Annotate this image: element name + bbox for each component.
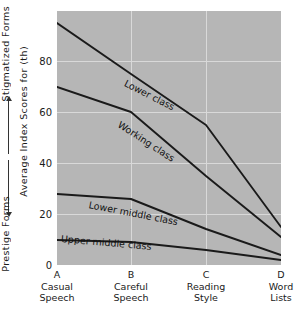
y-tick-60: 60 (30, 107, 52, 118)
x-tick-a: A Casual Speech (22, 269, 92, 304)
x-tick-d: D Word Lists (246, 269, 302, 304)
x-tick-d-line1: Word (246, 281, 302, 293)
x-tick-d-code: D (246, 269, 302, 281)
series-lines (57, 11, 281, 265)
stigmatized-arrow-head-icon (6, 96, 12, 101)
x-tick-d-line2: Lists (246, 292, 302, 304)
x-tick-a-line2: Speech (22, 292, 92, 304)
x-tick-c-code: C (171, 269, 241, 281)
stigmatized-forms-label: Stigmatized Forms (0, 6, 11, 101)
x-tick-a-line1: Casual (22, 281, 92, 293)
y-tick-40: 40 (30, 158, 52, 169)
x-tick-a-code: A (22, 269, 92, 281)
x-tick-b-code: B (96, 269, 166, 281)
x-tick-b-line1: Careful (96, 281, 166, 293)
x-tick-c-line2: Style (171, 292, 241, 304)
stigmatized-arrow-shaft (8, 100, 9, 154)
plot-area: Lower class Working class Lower middle c… (57, 11, 281, 265)
y-tick-80: 80 (30, 56, 52, 67)
x-tick-c: C Reading Style (171, 269, 241, 304)
x-tick-b: B Careful Speech (96, 269, 166, 304)
chart-figure: Stigmatized Forms Prestige Forms Average… (0, 0, 302, 314)
prestige-forms-label: Prestige Forms (0, 196, 11, 272)
x-tick-b-line2: Speech (96, 292, 166, 304)
y-axis-title: Average Index Scores for (th) (18, 46, 29, 197)
x-tick-c-line1: Reading (171, 281, 241, 293)
y-tick-20: 20 (30, 209, 52, 220)
